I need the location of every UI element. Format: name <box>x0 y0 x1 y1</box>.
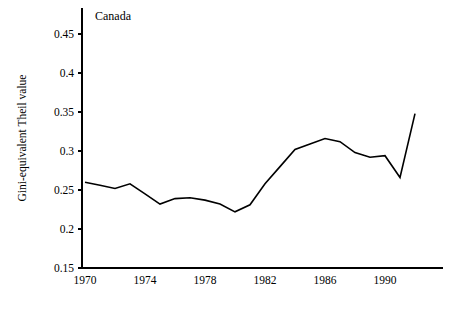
x-axis-tick-label: 1974 <box>134 274 157 286</box>
x-axis-tick-label: 1970 <box>74 274 97 286</box>
x-axis-tick-label: 1982 <box>254 274 277 286</box>
line-chart-canvas: 0.150.20.250.30.350.40.45 19701974197819… <box>0 0 461 317</box>
y-axis-tick-label: 0.4 <box>60 67 75 79</box>
x-axis-tick-labels: 197019741978198219861990 <box>74 274 397 286</box>
y-axis-tick-label: 0.35 <box>54 106 74 118</box>
y-axis-tick-label: 0.3 <box>60 145 75 157</box>
plot-area: 0.150.20.250.30.350.40.45 19701974197819… <box>54 8 443 286</box>
x-axis-tick-label: 1990 <box>374 274 397 286</box>
chart-figure: 0.150.20.250.30.350.40.45 19701974197819… <box>0 0 461 317</box>
y-axis-tick-label: 0.25 <box>54 184 74 196</box>
y-axis-title: Gini-equivalent Theil value <box>16 75 29 202</box>
data-series-line-canada <box>85 114 415 212</box>
y-axis-tick-label: 0.2 <box>60 223 75 235</box>
series-label-canada: Canada <box>95 9 132 23</box>
y-axis-tick-label: 0.15 <box>54 262 74 274</box>
y-axis-ticks: 0.150.20.250.30.350.40.45 <box>54 28 82 274</box>
y-axis-tick-label: 0.45 <box>54 28 74 40</box>
x-axis-tick-label: 1986 <box>314 274 337 286</box>
x-axis-tick-label: 1978 <box>194 274 217 286</box>
